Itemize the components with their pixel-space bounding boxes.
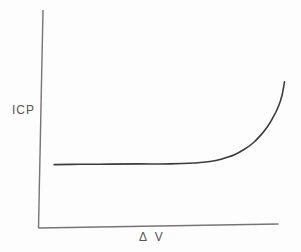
chart-canvas [0,0,301,252]
y-axis-line [39,10,44,228]
y-axis-label: ICP [12,103,35,117]
x-axis-label: Δ V [139,230,165,244]
icp-curve [54,82,284,165]
icp-volume-chart: ICP Δ V [0,0,301,252]
x-axis-line [39,224,279,228]
